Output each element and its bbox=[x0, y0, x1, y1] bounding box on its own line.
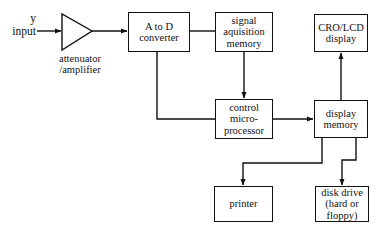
block-a-to-d-converter-label: A to D converter bbox=[138, 21, 180, 43]
wire-display-memory-to-printer bbox=[243, 138, 322, 185]
block-display-memory[interactable]: display memory bbox=[314, 100, 368, 138]
block-disk-drive-label: disk drive (hard or floppy) bbox=[320, 187, 364, 220]
block-control-microprocessor-label: control micro- processor bbox=[223, 102, 265, 135]
block-control-microprocessor[interactable]: control micro- processor bbox=[215, 99, 273, 139]
block-disk-drive[interactable]: disk drive (hard or floppy) bbox=[315, 186, 369, 222]
block-signal-acquisition-memory[interactable]: signal aquisition memory bbox=[215, 12, 273, 52]
block-display-memory-label: display memory bbox=[323, 108, 360, 130]
attenuator-amplifier-triangle-icon bbox=[62, 14, 92, 50]
block-printer-label: printer bbox=[229, 198, 259, 209]
block-cro-lcd-display[interactable]: CRO/LCD display bbox=[314, 14, 368, 52]
wire-adc-to-control bbox=[157, 52, 215, 119]
y-input-label: y input bbox=[0, 12, 36, 37]
block-cro-lcd-display-label: CRO/LCD display bbox=[317, 22, 365, 44]
block-diagram-canvas: y input attenuator /amplifier A to D con… bbox=[0, 0, 388, 237]
attenuator-amplifier-caption: attenuator /amplifier bbox=[40, 53, 120, 76]
block-signal-acquisition-memory-label: signal aquisition memory bbox=[222, 15, 265, 48]
block-a-to-d-converter[interactable]: A to D converter bbox=[128, 12, 190, 52]
wire-display-memory-to-disk-drive bbox=[342, 138, 356, 185]
block-printer[interactable]: printer bbox=[214, 186, 273, 222]
